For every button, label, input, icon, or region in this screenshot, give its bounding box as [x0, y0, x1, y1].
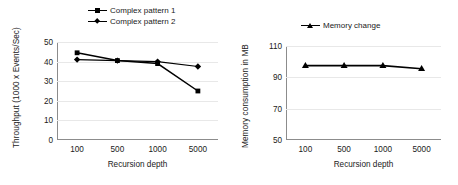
x-tick-label: 500	[337, 145, 351, 154]
throughput-legend: Complex pattern 1 Complex pattern 2	[88, 5, 175, 27]
throughput-series-lines	[57, 42, 218, 140]
memory-x-axis-title: Recursion depth	[286, 160, 441, 169]
y-tick-label: 0	[48, 136, 53, 145]
data-point-marker	[196, 89, 201, 94]
legend-label-memory-change: Memory change	[323, 21, 380, 30]
memory-series-lines	[286, 46, 441, 140]
throughput-x-axis-title: Recursion depth	[57, 160, 218, 169]
legend-label-complex-pattern-1: Complex pattern 1	[110, 6, 175, 15]
x-tick-label: 5000	[412, 145, 430, 154]
triangle-marker-icon	[301, 21, 320, 30]
x-tick-label: 100	[70, 145, 84, 154]
throughput-chart-panel: Complex pattern 1 Complex pattern 2 Thro…	[0, 0, 229, 185]
y-tick-label: 20	[44, 96, 53, 105]
series-line-complex-pattern-1	[77, 53, 198, 91]
x-tick-label: 5000	[189, 145, 207, 154]
y-tick-label: 110	[269, 42, 282, 51]
y-tick-label: 50	[273, 136, 282, 145]
memory-y-axis-title: Memory consumption in MB	[241, 44, 250, 148]
throughput-plot-area: 0 10 20 30 40 50 100 500 1000 5000	[57, 42, 218, 140]
legend-item-complex-pattern-2: Complex pattern 2	[88, 16, 175, 27]
diamond-marker-icon	[88, 17, 107, 26]
y-tick-label: 40	[44, 57, 53, 66]
y-tick-label: 50	[44, 38, 53, 47]
legend-item-complex-pattern-1: Complex pattern 1	[88, 5, 175, 16]
y-tick-label: 10	[44, 116, 53, 125]
memory-chart-panel: Memory change Memory consumption in MB 5…	[229, 0, 458, 185]
y-tick-label: 30	[44, 77, 53, 86]
series-line-complex-pattern-2	[77, 60, 198, 67]
data-point-marker	[195, 63, 201, 69]
throughput-y-axis-title: Throughput (1000 x Events/Sec)	[12, 27, 21, 148]
y-tick-label: 70	[273, 104, 282, 113]
legend-label-complex-pattern-2: Complex pattern 2	[110, 17, 175, 26]
legend-item-memory-change: Memory change	[301, 20, 380, 31]
square-marker-icon	[88, 6, 107, 15]
figure-two-line-charts: Complex pattern 1 Complex pattern 2 Thro…	[0, 0, 458, 185]
y-tick-label: 90	[273, 73, 282, 82]
x-tick-label: 500	[111, 145, 125, 154]
data-point-marker	[75, 50, 80, 55]
x-tick-label: 1000	[148, 145, 166, 154]
x-tick-label: 100	[299, 145, 313, 154]
memory-legend: Memory change	[301, 20, 380, 31]
series-line-memory-change	[305, 66, 421, 69]
x-tick-label: 1000	[374, 145, 392, 154]
data-point-marker	[74, 56, 80, 62]
memory-plot-area: 50 70 90 110 100 500 1000 5000	[286, 46, 441, 140]
